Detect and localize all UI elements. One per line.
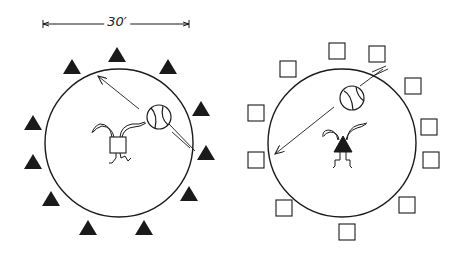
square-marker-icon: [248, 152, 264, 168]
triangle-marker-icon: [197, 145, 215, 160]
triangle-marker-icon: [192, 101, 210, 116]
square-marker-icon: [421, 119, 437, 135]
incoming-path-right: [360, 66, 388, 86]
triangle-marker-icon: [42, 191, 60, 206]
square-marker-icon: [369, 46, 385, 62]
triangle-marker-icon: [159, 59, 177, 74]
triangle-marker-icon: [24, 154, 42, 169]
right-diagram: [248, 43, 439, 240]
square-marker-icon: [280, 61, 296, 77]
player-figure-right: [323, 123, 367, 168]
dimension-label: 30′: [104, 14, 130, 29]
triangle-marker-icon: [24, 115, 42, 130]
ball-icon: [147, 105, 171, 129]
square-marker-icon: [276, 200, 292, 216]
square-marker-icon: [399, 197, 415, 213]
diagram-canvas: [0, 0, 466, 260]
square-marker-icon: [248, 105, 264, 121]
ball-icon: [340, 86, 364, 110]
square-marker-icon: [423, 152, 439, 168]
triangle-marker-icon: [108, 47, 126, 62]
left-diagram: [24, 20, 215, 235]
triangle-marker-icon: [63, 59, 81, 74]
square-marker-icon: [329, 43, 345, 59]
square-marker-icon: [339, 224, 355, 240]
throw-arrow-left: [98, 76, 139, 109]
triangle-marker-icon: [79, 220, 97, 235]
triangle-marker-icon: [135, 220, 153, 235]
player-figure-left: [92, 122, 146, 163]
square-marker-icon: [405, 78, 421, 94]
triangle-marker-icon: [180, 186, 198, 201]
